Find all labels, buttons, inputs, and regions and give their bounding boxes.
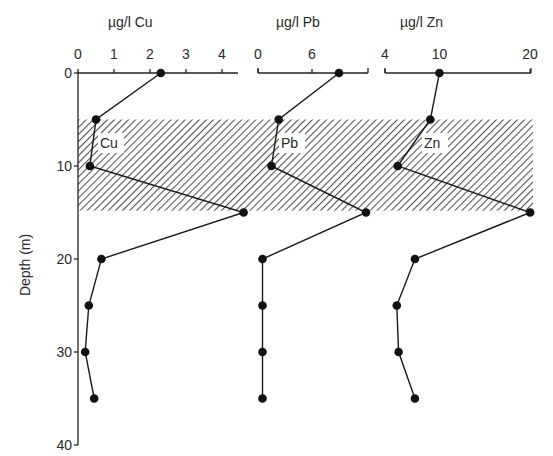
zn-data-point: [394, 348, 403, 357]
pb-data-point: [267, 162, 276, 171]
cu-tick-label: 3: [182, 46, 190, 62]
cu-tick-label: 0: [74, 46, 82, 62]
pb-tick-label: 6: [308, 46, 316, 62]
pb-tick-label: 0: [254, 46, 262, 62]
depth-tick-label: 40: [56, 437, 72, 453]
zn-data-point: [435, 69, 444, 78]
cu-data-point: [85, 301, 94, 310]
pb-data-point: [274, 115, 283, 124]
pb-data-point: [258, 301, 267, 310]
cu-data-point: [92, 115, 101, 124]
zn-data-point: [392, 301, 401, 310]
pb-data-point: [335, 69, 344, 78]
cu-data-point: [157, 69, 166, 78]
depth-tick-label: 10: [56, 158, 72, 174]
shaded-depth-band: [78, 120, 533, 211]
zn-tick-label: 10: [432, 46, 448, 62]
depth-tick-label: 0: [64, 65, 72, 81]
pb-inline-label: Pb: [281, 135, 298, 151]
pb-data-point: [362, 208, 371, 217]
zn-data-point: [426, 115, 435, 124]
cu-tick-label: 2: [146, 46, 154, 62]
cu-data-point: [97, 255, 106, 264]
cu-tick-label: 4: [218, 46, 226, 62]
cu-data-point: [90, 394, 99, 403]
pb-data-point: [258, 255, 267, 264]
zn-tick-label: 4: [381, 46, 389, 62]
zn-inline-label: Zn: [424, 135, 440, 151]
depth-tick-label: 30: [56, 344, 72, 360]
cu-data-point: [81, 348, 90, 357]
cu-inline-label: Cu: [100, 135, 118, 151]
pb-data-point: [258, 348, 267, 357]
depth-profile-chart: CuPbZn µg/l Cu µg/l Pb µg/l Zn 010203040…: [0, 0, 553, 456]
pb-axis-title: µg/l Pb: [276, 14, 320, 30]
pb-data-point: [258, 394, 267, 403]
cu-data-point: [86, 162, 95, 171]
cu-tick-label: 1: [110, 46, 118, 62]
zn-data-point: [526, 208, 535, 217]
zn-tick-label: 20: [522, 46, 538, 62]
zn-data-point: [411, 394, 420, 403]
cu-axis-title: µg/l Cu: [108, 14, 153, 30]
zn-data-point: [393, 162, 402, 171]
depth-tick-label: 20: [56, 251, 72, 267]
zn-data-point: [411, 255, 420, 264]
depth-axis-label: Depth (m): [17, 234, 33, 296]
zn-axis-title: µg/l Zn: [400, 14, 443, 30]
cu-data-point: [239, 208, 248, 217]
